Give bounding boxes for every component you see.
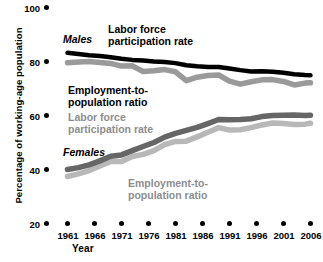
annotation-males-epop-line1: Employment-to- xyxy=(68,85,148,97)
annotation-females-lfp-line1: Labor force xyxy=(68,112,126,124)
annotation-males-epop-line2: population ratio xyxy=(68,97,147,109)
series-label-females: Females xyxy=(63,146,105,158)
annotation-females-lfp-line2: participation rate xyxy=(68,124,153,136)
series-label-males: Males xyxy=(63,33,92,45)
chart-figure: Percentage of working-age population Yea… xyxy=(0,0,323,262)
annotation-males-lfp-line1: Labor force xyxy=(108,24,166,36)
annotation-males-lfp-line2: participation rate xyxy=(108,36,193,48)
annotation-females-epop-line2: population ratio xyxy=(128,190,207,202)
annotation-females-epop-line1: Employment-to- xyxy=(128,178,208,190)
